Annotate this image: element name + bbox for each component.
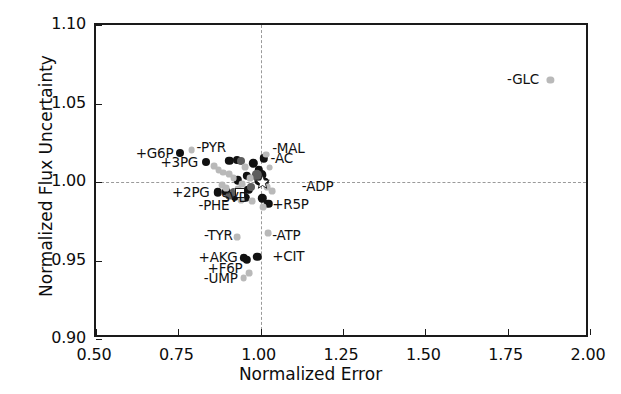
point-annotation: -PYR	[196, 139, 226, 155]
data-point	[265, 230, 272, 237]
data-point	[202, 158, 210, 166]
x-tick-label: 1.75	[488, 345, 523, 364]
x-axis-label: Normalized Error	[0, 364, 621, 384]
x-tick-label: 1.00	[241, 345, 276, 364]
data-point	[260, 204, 267, 211]
x-tick-mark	[425, 329, 426, 335]
y-tick-mark	[96, 182, 102, 183]
data-point	[241, 164, 248, 171]
data-point	[246, 270, 253, 277]
y-axis-label: Normalized Flux Uncertainty	[36, 26, 56, 326]
x-tick-mark	[590, 329, 591, 335]
y-tick-mark	[96, 25, 102, 26]
plot-area: -GLC+G6P-PYR+3PG-MAL-AC-ADP+2PGSVD-PHE+R…	[94, 23, 588, 337]
data-point	[263, 151, 270, 158]
x-tick-mark	[261, 329, 262, 335]
y-tick-label: 0.90	[36, 328, 86, 347]
data-point	[230, 175, 237, 182]
reference-star-marker	[255, 175, 270, 190]
y-tick-mark	[96, 261, 102, 262]
y-tick-mark	[96, 339, 102, 340]
point-annotation: +3PG	[160, 154, 198, 170]
point-annotation: +R5P	[272, 196, 309, 212]
point-annotation: -ATP	[272, 227, 300, 243]
x-tick-mark	[343, 329, 344, 335]
x-tick-label: 0.50	[77, 345, 112, 364]
point-annotation: -ADP	[302, 178, 334, 194]
data-point	[243, 256, 251, 264]
point-annotation: +CIT	[272, 248, 304, 264]
x-tick-label: 2.00	[571, 345, 606, 364]
figure: -GLC+G6P-PYR+3PG-MAL-AC-ADP+2PGSVD-PHE+R…	[0, 0, 621, 394]
x-tick-label: 0.75	[159, 345, 194, 364]
x-tick-label: 1.50	[406, 345, 441, 364]
x-tick-mark	[178, 329, 179, 335]
point-annotation: -UMP	[204, 270, 238, 286]
data-point	[547, 76, 554, 83]
point-annotation: -PHE	[198, 197, 229, 213]
data-point	[188, 146, 195, 153]
reference-line-horizontal	[96, 182, 586, 183]
x-tick-mark	[508, 329, 509, 335]
y-tick-mark	[96, 104, 102, 105]
data-point	[247, 175, 254, 182]
point-annotation: -GLC	[507, 71, 539, 87]
point-annotation: -AC	[271, 150, 293, 166]
data-point	[234, 234, 241, 241]
x-tick-label: 1.25	[324, 345, 359, 364]
x-tick-mark	[96, 329, 97, 335]
point-annotation: -TYR	[204, 227, 233, 243]
data-point	[249, 197, 256, 204]
